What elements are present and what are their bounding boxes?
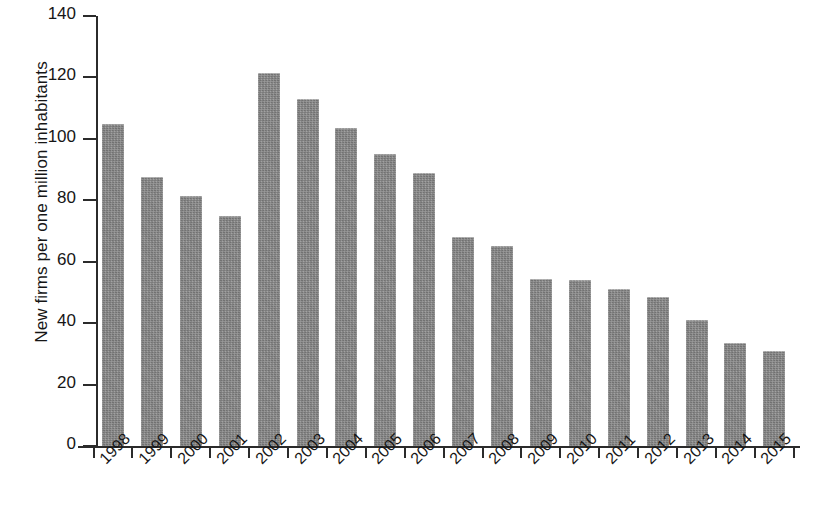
y-axis-tick: 140 [83,15,96,17]
x-axis-tick [404,446,406,458]
x-axis-tick [248,446,250,458]
bar [141,177,163,446]
x-axis-tick [287,446,289,458]
x-axis-tick [520,446,522,458]
bar [647,297,669,446]
y-axis-tick: 120 [83,76,96,78]
bar [335,128,357,446]
bar [180,196,202,446]
bar-chart: New firms per one million inhabitants 02… [0,0,820,509]
bar [491,246,513,446]
y-axis-tick-label: 20 [57,373,76,393]
x-axis-tick [637,446,639,458]
x-axis-tick [482,446,484,458]
plot-area: 020406080100120140 [96,16,800,446]
y-axis-tick-label: 0 [67,434,76,454]
bar [686,320,708,446]
bar [452,237,474,446]
y-axis-tick: 80 [83,199,96,201]
x-axis-tick [715,446,717,458]
bar [530,279,552,446]
y-axis-title: New firms per one million inhabitants [32,0,52,412]
y-axis-tick-label: 100 [48,127,76,147]
x-axis-tick [598,446,600,458]
x-axis-tick [559,446,561,458]
y-axis-tick-label: 60 [57,250,76,270]
x-axis-tick [793,446,795,458]
bar [569,280,591,446]
y-axis-tick: 20 [83,384,96,386]
x-axis-tick [170,446,172,458]
x-axis-tick [754,446,756,458]
bar [219,216,241,446]
bar [374,154,396,446]
y-axis-tick-label: 80 [57,188,76,208]
y-axis-tick: 40 [83,322,96,324]
bar [413,173,435,446]
x-axis-tick [209,446,211,458]
y-axis-tick: 60 [83,261,96,263]
bar [258,73,280,446]
x-axis-tick [365,446,367,458]
y-axis-tick-label: 120 [48,65,76,85]
x-axis-tick [326,446,328,458]
y-axis-tick-label: 140 [48,4,76,24]
x-axis-tick [131,446,133,458]
bar [102,124,124,447]
y-axis-tick: 100 [83,138,96,140]
x-axis-tick [93,446,95,458]
y-axis-tick-label: 40 [57,311,76,331]
x-axis-tick [676,446,678,458]
x-axis-tick [443,446,445,458]
bar [297,99,319,446]
bar [608,289,630,446]
